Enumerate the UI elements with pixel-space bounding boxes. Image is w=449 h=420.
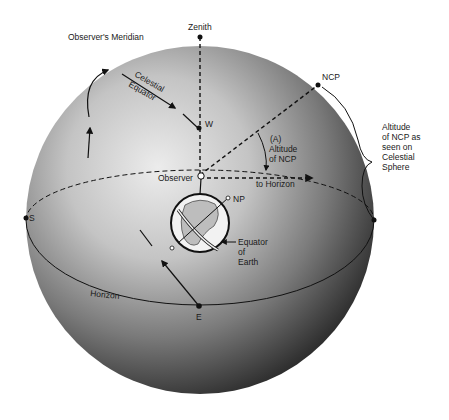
altitude-label-2: of NCP bbox=[269, 154, 297, 164]
side-note-line-4: Celestial bbox=[382, 152, 415, 162]
side-note-line-2: of NCP as bbox=[382, 132, 421, 142]
to-horizon-label: to Horizon bbox=[256, 179, 295, 189]
equator-of-earth-label-2: of bbox=[238, 247, 246, 257]
side-note-line-3: seen on bbox=[382, 142, 413, 152]
south-point bbox=[24, 216, 29, 221]
zenith-point bbox=[198, 35, 203, 40]
west-point bbox=[197, 126, 202, 131]
ncp-label: NCP bbox=[322, 72, 340, 82]
celestial-sphere-diagram: Zenith Observer's Meridian Celestial Equ… bbox=[0, 0, 449, 420]
equator-of-earth-label-3: Earth bbox=[238, 257, 259, 267]
equator-of-earth-label-1: Equator bbox=[238, 237, 268, 247]
observer-label: Observer bbox=[158, 173, 193, 183]
east-label: E bbox=[196, 312, 202, 322]
south-label: S bbox=[29, 213, 35, 223]
angle-a-label: (A) bbox=[270, 134, 282, 144]
ncp-point bbox=[316, 83, 321, 88]
zenith-label: Zenith bbox=[188, 22, 212, 32]
observers-meridian-label: Observer's Meridian bbox=[68, 32, 144, 42]
np-label: NP bbox=[233, 194, 245, 204]
earth-globe bbox=[170, 194, 230, 252]
west-label: W bbox=[205, 119, 213, 129]
side-note-line-5: Sphere bbox=[382, 162, 410, 172]
altitude-label-1: Altitude bbox=[269, 144, 298, 154]
side-note-line-1: Altitude bbox=[382, 122, 411, 132]
east-point bbox=[196, 303, 202, 309]
